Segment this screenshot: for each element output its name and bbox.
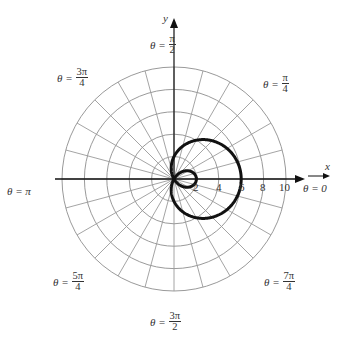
grid-ray [174,150,282,179]
grid-ray [174,71,203,179]
grid-ray [66,179,174,208]
angle-label-pi-over-4: θ = π4 [263,73,289,94]
x-tick-10: 10 [279,181,290,193]
grid-ray [118,82,174,179]
angle-label-zero: θ = 0 [303,182,327,194]
y-axis-arrowhead-icon [170,18,178,28]
angle-label-3pi-over-4: θ = 3π4 [57,67,88,88]
x-tick-6: 6 [239,181,245,193]
grid-ray [66,150,174,179]
angle-label-pi: θ = π [7,185,31,197]
angle-label-3pi-over-2: θ = 3π2 [150,311,181,332]
x-tick-2: 2 [193,181,199,193]
x-axis-label: x [325,160,330,172]
x-tick-4: 4 [216,181,222,193]
grid-ray [77,123,174,179]
grid-ray [118,179,174,276]
grid-ray [174,179,203,287]
grid-ray [174,100,253,179]
angle-label-pi-over-2: θ = π2 [150,34,176,55]
grid-ray [174,179,230,276]
grid-ray [145,71,174,179]
grid-ray [95,179,174,258]
angle-label-5pi-over-4: θ = 5π4 [53,271,84,292]
y-axis-label: y [163,12,168,24]
angle-label-7pi-over-4: θ = 7π4 [264,271,295,292]
x-tick-8: 8 [260,181,266,193]
theta-zero-arrowhead-icon [323,173,330,179]
grid-ray [145,179,174,287]
grid-ray [174,82,230,179]
grid-ray [77,179,174,235]
grid-ray [95,100,174,179]
